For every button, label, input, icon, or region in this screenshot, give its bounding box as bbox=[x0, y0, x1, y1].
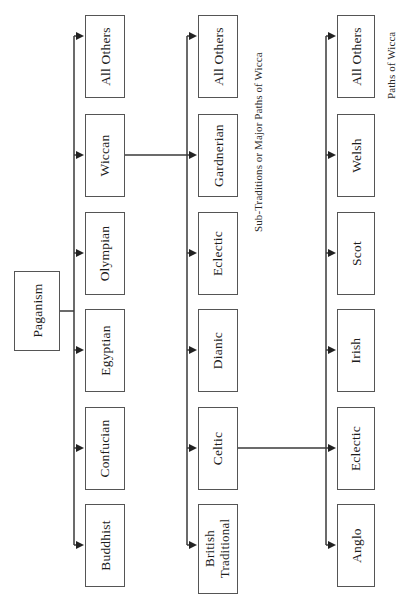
node-welsh[interactable]: Welsh bbox=[337, 114, 375, 197]
node-label: Gardnerian bbox=[210, 124, 225, 187]
node-label: Celtic bbox=[210, 432, 225, 465]
node-wiccan[interactable]: Wiccan bbox=[85, 114, 125, 197]
node-label: Eclectic bbox=[210, 231, 225, 276]
caption-sub-traditions: Sub-Traditions or Major Paths of Wicca bbox=[252, 52, 264, 232]
node-all-others-religions[interactable]: All Others bbox=[85, 15, 125, 98]
node-confucian[interactable]: Confucian bbox=[85, 407, 125, 490]
node-eclectic-subtradition[interactable]: Eclectic bbox=[198, 212, 238, 295]
node-eclectic-path[interactable]: Eclectic bbox=[337, 407, 375, 490]
node-label: Welsh bbox=[348, 138, 363, 172]
node-gardnerian[interactable]: Gardnerian bbox=[198, 114, 238, 197]
node-buddhist[interactable]: Buddhist bbox=[85, 504, 125, 587]
node-label: British Traditional bbox=[203, 519, 232, 579]
node-label: Egyptian bbox=[97, 325, 112, 375]
caption-paths-of-wicca: Paths of Wicca bbox=[385, 32, 397, 99]
node-olympian[interactable]: Olympian bbox=[85, 212, 125, 295]
node-celtic[interactable]: Celtic bbox=[198, 407, 238, 490]
node-label: All Others bbox=[348, 27, 363, 86]
node-label: All Others bbox=[97, 27, 112, 86]
node-label: Anglo bbox=[348, 528, 363, 563]
node-paganism[interactable]: Paganism bbox=[14, 271, 60, 351]
node-label: Irish bbox=[348, 338, 363, 364]
node-scot[interactable]: Scot bbox=[337, 212, 375, 295]
node-label: Confucian bbox=[97, 419, 112, 477]
node-british-traditional[interactable]: British Traditional bbox=[198, 504, 238, 594]
node-anglo[interactable]: Anglo bbox=[337, 504, 375, 587]
node-label: Wiccan bbox=[97, 135, 112, 177]
node-label: Olympian bbox=[97, 226, 112, 282]
node-label: Paganism bbox=[29, 284, 44, 338]
node-label: All Others bbox=[210, 27, 225, 86]
node-dianic[interactable]: Dianic bbox=[198, 309, 238, 392]
node-label: Dianic bbox=[210, 332, 225, 369]
node-label: Scot bbox=[348, 241, 363, 266]
paganism-hierarchy-diagram: Paganism All Others Wiccan Olympian Egyp… bbox=[0, 0, 400, 601]
node-label: Buddhist bbox=[97, 520, 112, 570]
node-label: Eclectic bbox=[348, 426, 363, 471]
node-egyptian[interactable]: Egyptian bbox=[85, 309, 125, 392]
node-all-others-paths[interactable]: All Others bbox=[337, 15, 375, 98]
node-irish[interactable]: Irish bbox=[337, 309, 375, 392]
node-all-others-subtraditions[interactable]: All Others bbox=[198, 15, 238, 98]
